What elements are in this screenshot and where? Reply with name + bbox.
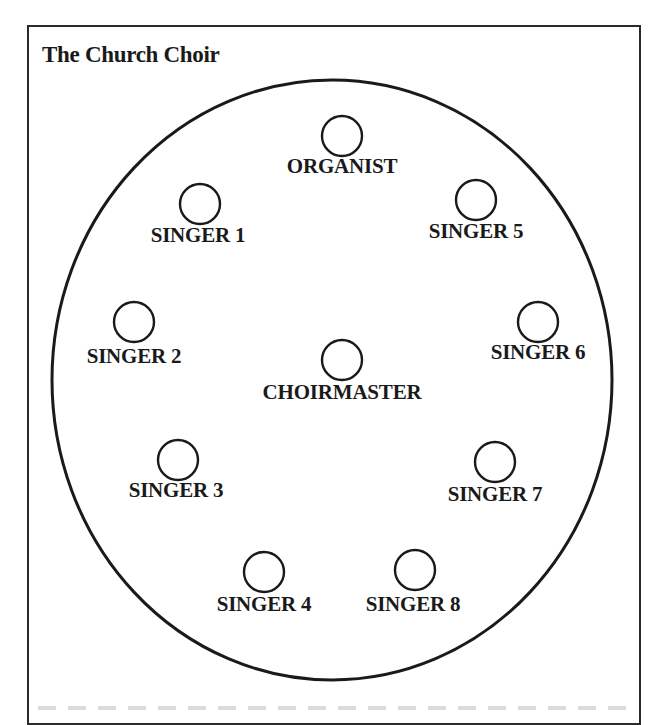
singer-3-seat-circle bbox=[158, 440, 198, 480]
singer-2-seat-circle bbox=[114, 302, 154, 342]
choirmaster-label: CHOIRMASTER bbox=[263, 380, 422, 405]
singer-8-seat-circle bbox=[395, 550, 435, 590]
singer-1-label: SINGER 1 bbox=[151, 223, 246, 248]
singer-7-seat-circle bbox=[475, 442, 515, 482]
singer-4-seat-circle bbox=[244, 552, 284, 592]
organist-seat-circle bbox=[322, 116, 362, 156]
singer-6-seat-circle bbox=[518, 302, 558, 342]
singer-8-label: SINGER 8 bbox=[366, 592, 461, 617]
singer-3-label: SINGER 3 bbox=[129, 478, 224, 503]
singer-4-label: SINGER 4 bbox=[217, 592, 312, 617]
singer-2-label: SINGER 2 bbox=[87, 344, 182, 369]
singer-5-label: SINGER 5 bbox=[429, 219, 524, 244]
cut-off-text-line bbox=[38, 706, 628, 710]
organist-label: ORGANIST bbox=[287, 154, 397, 179]
choirmaster-seat-circle bbox=[322, 340, 362, 380]
singer-5-seat-circle bbox=[456, 180, 496, 220]
singer-6-label: SINGER 6 bbox=[491, 340, 586, 365]
singer-1-seat-circle bbox=[180, 184, 220, 224]
singer-7-label: SINGER 7 bbox=[448, 482, 543, 507]
